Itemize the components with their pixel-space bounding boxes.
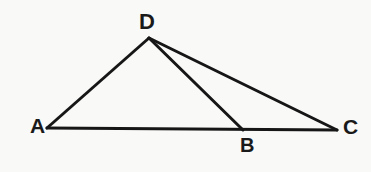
vertex-label-c: C	[343, 116, 358, 137]
segment-db	[149, 38, 243, 130]
segment-ac	[47, 128, 337, 130]
geometry-canvas	[0, 0, 371, 172]
vertex-label-a: A	[30, 115, 45, 136]
vertex-label-b: B	[240, 135, 254, 155]
geometry-diagram: A B C D	[0, 0, 371, 172]
segment-ad	[47, 38, 149, 128]
vertex-label-d: D	[139, 11, 155, 33]
segment-dc	[149, 38, 337, 130]
